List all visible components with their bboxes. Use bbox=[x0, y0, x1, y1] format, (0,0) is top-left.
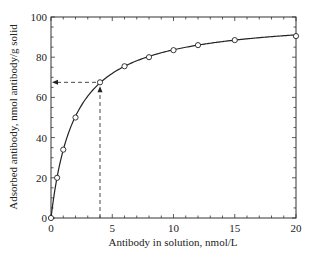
dashed-guide-lines bbox=[52, 80, 103, 218]
data-point bbox=[195, 43, 200, 48]
data-point bbox=[73, 115, 78, 120]
data-point bbox=[146, 55, 151, 60]
arrowhead-icon bbox=[98, 86, 103, 92]
data-point bbox=[61, 147, 66, 152]
x-tick-label: 0 bbox=[48, 222, 54, 234]
data-point bbox=[293, 33, 298, 38]
isotherm-curve bbox=[51, 35, 296, 218]
x-tick-label: 5 bbox=[110, 222, 116, 234]
x-axis-label: Antibody in solution, nmol/L bbox=[109, 236, 238, 248]
x-tick-label: 10 bbox=[168, 222, 180, 234]
data-point bbox=[97, 80, 102, 85]
y-tick-label: 40 bbox=[36, 132, 48, 144]
y-axis-label: Adsorbed antibody, nmol antibody/g solid bbox=[7, 24, 19, 210]
data-point bbox=[171, 48, 176, 53]
tick-labels: 05101520020406080100 bbox=[31, 11, 303, 234]
x-tick-label: 15 bbox=[229, 222, 241, 234]
y-tick-label: 20 bbox=[36, 172, 48, 184]
adsorption-chart: 05101520020406080100 Antibody in solutio… bbox=[0, 0, 315, 261]
y-tick-label: 80 bbox=[36, 51, 48, 63]
y-tick-label: 0 bbox=[42, 212, 48, 224]
data-point bbox=[55, 175, 60, 180]
y-tick-label: 100 bbox=[31, 11, 48, 23]
data-point-markers bbox=[48, 33, 298, 220]
x-tick-label: 20 bbox=[291, 222, 303, 234]
y-tick-label: 60 bbox=[36, 91, 48, 103]
data-point bbox=[232, 38, 237, 43]
data-point bbox=[122, 64, 127, 69]
data-point bbox=[48, 215, 53, 220]
arrowhead-icon bbox=[52, 80, 58, 85]
